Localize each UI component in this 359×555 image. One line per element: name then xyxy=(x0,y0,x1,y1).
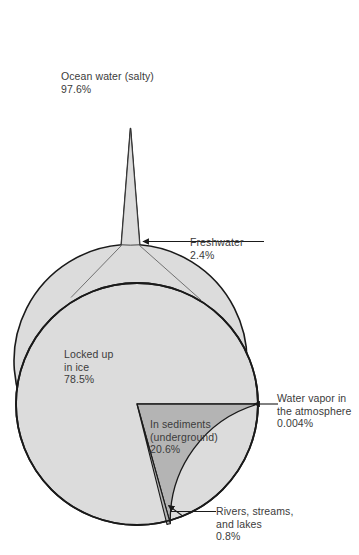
label-ocean-water-name: Ocean water (salty) xyxy=(61,70,154,83)
label-rivers-line2: and lakes xyxy=(216,518,293,531)
label-ice-line1: Locked up xyxy=(64,348,113,361)
bottom-pie-chart xyxy=(16,283,258,525)
label-rivers-value: 0.8% xyxy=(216,530,293,543)
label-rivers-streams-lakes: Rivers, streams, and lakes 0.8% xyxy=(216,505,293,543)
slice-freshwater xyxy=(121,129,139,246)
label-sediments-line1: In sediments xyxy=(150,418,218,431)
label-water-vapor: Water vapor in the atmosphere 0.004% xyxy=(277,392,351,430)
label-ocean-water: Ocean water (salty) 97.6% xyxy=(61,70,154,95)
label-vapor-line1: Water vapor in xyxy=(277,392,351,405)
label-in-sediments: In sediments (underground) 20.6% xyxy=(150,418,218,456)
label-ice-value: 78.5% xyxy=(64,373,113,386)
label-sediments-value: 20.6% xyxy=(150,443,218,456)
label-vapor-value: 0.004% xyxy=(277,417,351,430)
pie-chart-pair-svg xyxy=(0,0,359,555)
label-ocean-water-value: 97.6% xyxy=(61,83,154,96)
label-rivers-line1: Rivers, streams, xyxy=(216,505,293,518)
label-ice-line2: in ice xyxy=(64,361,113,374)
label-sediments-line2: (underground) xyxy=(150,431,218,444)
label-freshwater: Freshwater 2.4% xyxy=(190,236,244,261)
label-freshwater-value: 2.4% xyxy=(190,249,244,262)
label-freshwater-name: Freshwater xyxy=(190,236,244,249)
label-vapor-line2: the atmosphere xyxy=(277,405,351,418)
label-locked-up-in-ice: Locked up in ice 78.5% xyxy=(64,348,113,386)
